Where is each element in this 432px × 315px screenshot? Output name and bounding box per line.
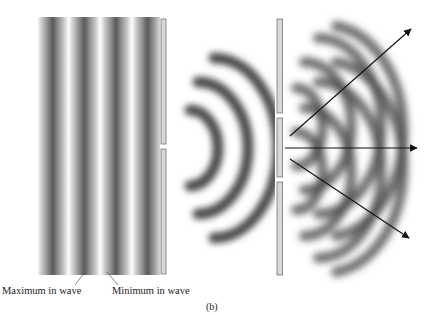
double-slit-barrier bbox=[277, 19, 283, 275]
wave-diffraction-diagram bbox=[0, 0, 432, 315]
barrier-segment bbox=[277, 19, 283, 113]
barrier-segment bbox=[277, 118, 283, 177]
single-slit-barrier bbox=[161, 19, 166, 274]
double-slit-interference-waves bbox=[296, 26, 403, 272]
panel-label: (b) bbox=[206, 301, 218, 312]
minimum-in-wave-label: Minimum in wave bbox=[112, 285, 190, 296]
plane-waves bbox=[38, 17, 160, 275]
barrier-segment bbox=[161, 19, 166, 144]
maximum-in-wave-label: Maximum in wave bbox=[2, 285, 81, 296]
barrier-segment bbox=[161, 149, 166, 274]
single-slit-circular-waves bbox=[190, 58, 278, 238]
barrier-segment bbox=[277, 182, 283, 275]
